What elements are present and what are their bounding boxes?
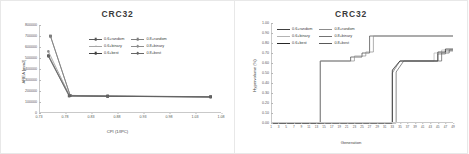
legend-item-0.8+best: 0.8+best <box>131 51 166 55</box>
legend-line-swatch <box>89 37 102 41</box>
y-tick-right: 0.10 <box>262 111 271 115</box>
legend-line-swatch <box>277 41 290 45</box>
y-tick-left: 700000 <box>25 34 39 38</box>
x-tick-right: 7 <box>293 125 295 129</box>
legend-item-label: 0.8+best <box>146 51 161 55</box>
chart-panel-hypervolume-vs-generation: CRC32 Hypervolume (%) 0.000.100.200.300.… <box>234 0 468 154</box>
legend-item-0.6+best: 0.6+best <box>277 41 312 45</box>
x-tick-right: 31 <box>383 125 386 129</box>
x-tick-left: 0.83 <box>88 115 95 119</box>
x-tick-right: 43 <box>429 125 432 129</box>
x-tick-right: 9 <box>300 125 302 129</box>
x-tick-left: 0.93 <box>140 115 147 119</box>
y-tick-right: 1.00 <box>262 21 271 25</box>
y-tick-left: 600000 <box>25 45 39 49</box>
legend-item-0.8+random: 0.8+random <box>131 37 166 41</box>
x-tick-right: 29 <box>375 125 378 129</box>
legend-line-swatch <box>319 27 332 31</box>
y-tick-right: 0.50 <box>262 71 271 75</box>
legend-item-label: 0.8+binary <box>146 44 164 48</box>
x-tick-right: 5 <box>285 125 287 129</box>
x-tick-right: 41 <box>421 125 424 129</box>
legend-line-swatch <box>277 27 290 31</box>
legend-item-0.8+binary: 0.8+binary <box>131 44 166 48</box>
y-tick-right: 0.60 <box>262 61 271 65</box>
legend-item-label: 0.8+binary <box>334 34 352 38</box>
y-tick-left: 800000 <box>25 23 39 27</box>
x-tick-right: 45 <box>436 125 439 129</box>
y-tick-left: 500000 <box>25 56 39 60</box>
legend-item-label: 0.8+random <box>334 27 354 31</box>
y-tick-left: 200000 <box>25 89 39 93</box>
legend-line-swatch <box>131 44 144 48</box>
x-tick-right: 35 <box>398 125 401 129</box>
legend-line-swatch <box>89 51 102 55</box>
x-axis-title-right: Generation <box>235 140 467 145</box>
legend-line-swatch <box>319 34 332 38</box>
legend-item-0.8+random: 0.8+random <box>319 27 354 31</box>
y-tick-right: 0.30 <box>262 91 271 95</box>
y-tick-right: 0.80 <box>262 41 271 45</box>
y-tick-right: 0.20 <box>262 101 271 105</box>
chart-title-left: CRC32 <box>1 9 234 19</box>
legend-item-0.6+random: 0.6+random <box>277 27 312 31</box>
x-tick-left: 0.78 <box>62 115 69 119</box>
x-tick-left: 1.08 <box>218 115 225 119</box>
x-tick-right: 19 <box>338 125 341 129</box>
x-tick-left: 0.98 <box>166 115 173 119</box>
x-tick-right: 27 <box>368 125 371 129</box>
x-tick-right: 3 <box>278 125 280 129</box>
x-tick-right: 25 <box>360 125 363 129</box>
legend-item-0.6+random: 0.6+random <box>89 37 124 41</box>
x-tick-left: 1.03 <box>192 115 199 119</box>
x-tick-right: 39 <box>413 125 416 129</box>
x-tick-right: 11 <box>307 125 310 129</box>
legend-item-label: 0.6+best <box>292 41 307 45</box>
y-axis-title-right: Hypervolume (%) <box>252 44 257 108</box>
x-tick-right: 15 <box>322 125 325 129</box>
legend-line-swatch <box>131 37 144 41</box>
x-tick-right: 49 <box>451 125 454 129</box>
legend-item-0.6+binary: 0.6+binary <box>277 34 312 38</box>
x-tick-right: 47 <box>444 125 447 129</box>
y-tick-left: 400000 <box>25 67 39 71</box>
x-tick-right: 23 <box>353 125 356 129</box>
chart-title-right: CRC32 <box>235 9 467 19</box>
legend-item-label: 0.6+random <box>292 27 312 31</box>
legend-item-0.6+best: 0.6+best <box>89 51 124 55</box>
legend-item-label: 0.6+random <box>104 37 124 41</box>
y-tick-left: 300000 <box>25 78 39 82</box>
y-tick-right: 0.40 <box>262 81 271 85</box>
legend-line-swatch <box>319 41 332 45</box>
x-tick-right: 1 <box>270 125 272 129</box>
legend-line-swatch <box>131 51 144 55</box>
x-tick-left: 0.73 <box>36 115 43 119</box>
x-tick-left: 0.88 <box>114 115 121 119</box>
x-axis-title-left: CPI (1/IPC) <box>1 129 234 134</box>
figure-root: CRC32 AREA [mm2] 01000002000003000004000… <box>0 0 469 154</box>
legend-item-label: 0.6+binary <box>104 44 122 48</box>
legend-line-swatch <box>277 34 290 38</box>
legend-item-0.8+binary: 0.8+binary <box>319 34 354 38</box>
legend-item-label: 0.6+best <box>104 51 119 55</box>
legend-item-label: 0.8+random <box>146 37 166 41</box>
legend-right: 0.6+random0.8+random0.6+binary0.8+binary… <box>277 27 355 45</box>
y-tick-left: 100000 <box>25 100 39 104</box>
legend-item-label: 0.8+best <box>334 41 349 45</box>
x-tick-right: 13 <box>315 125 318 129</box>
x-tick-right: 21 <box>345 125 348 129</box>
y-tick-right: 0.70 <box>262 51 271 55</box>
x-tick-right: 33 <box>391 125 394 129</box>
legend-left: 0.6+random0.8+random0.6+binary0.8+binary… <box>89 37 167 55</box>
legend-item-label: 0.6+binary <box>292 34 310 38</box>
x-tick-right: 17 <box>330 125 333 129</box>
legend-line-swatch <box>89 44 102 48</box>
legend-item-0.6+binary: 0.6+binary <box>89 44 124 48</box>
x-tick-right: 37 <box>406 125 409 129</box>
chart-panel-area-vs-cpi: CRC32 AREA [mm2] 01000002000003000004000… <box>0 0 234 154</box>
y-tick-right: 0.90 <box>262 31 271 35</box>
legend-item-0.8+best: 0.8+best <box>319 41 354 45</box>
